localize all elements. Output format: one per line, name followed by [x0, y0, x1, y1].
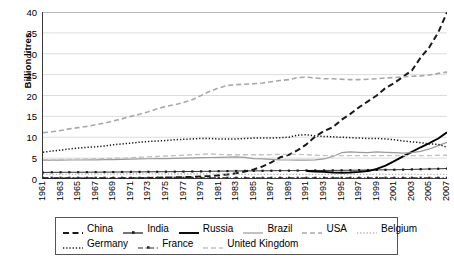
x-tick-1969: 1969 [107, 181, 117, 201]
legend-label-belgium: Belgium [381, 224, 417, 234]
x-tick-1961: 1961 [37, 181, 47, 201]
series-marker [59, 171, 61, 173]
plot-series-svg [43, 12, 447, 179]
legend-label-brazil: Brazil [267, 224, 292, 234]
series-marker [332, 177, 334, 179]
series-marker [226, 177, 228, 179]
series-marker [191, 177, 193, 179]
legend-label-france: France [162, 239, 193, 249]
legend-swatch-india [122, 224, 144, 234]
x-tick-1975: 1975 [160, 181, 170, 201]
legend-swatch-usa [301, 224, 323, 234]
series-marker [314, 177, 316, 179]
series-marker [297, 169, 299, 171]
series-marker [235, 170, 237, 172]
plot-area [42, 12, 446, 179]
series-marker [428, 168, 430, 170]
series-marker [200, 170, 202, 172]
y-tick-35: 35 [26, 27, 37, 38]
series-marker [103, 177, 105, 179]
chart-legend: ChinaIndiaRussiaBrazilUSABelgiumGermanyF… [55, 217, 398, 255]
legend-label-india: India [147, 224, 169, 234]
legend-label-usa: USA [326, 224, 347, 234]
series-marker [59, 177, 61, 179]
series-marker [77, 171, 79, 173]
x-tick-2005: 2005 [423, 181, 433, 201]
series-marker [279, 170, 281, 172]
x-tick-1963: 1963 [55, 181, 65, 201]
line-chart: Billion litres 0510152025303540 19611963… [0, 0, 454, 263]
legend-swatch-brazil [242, 224, 264, 234]
x-tick-1981: 1981 [213, 181, 223, 201]
series-marker [253, 170, 255, 172]
series-marker [341, 177, 343, 179]
legend-item-germany[interactable]: Germany [62, 239, 128, 249]
series-marker [332, 169, 334, 171]
x-tick-1967: 1967 [90, 181, 100, 201]
series-marker [244, 177, 246, 179]
legend-row-1: ChinaIndiaRussiaBrazilUSABelgium [62, 221, 391, 236]
legend-swatch-belgium [356, 224, 378, 234]
y-tick-15: 15 [26, 111, 37, 122]
legend-item-russia[interactable]: Russia [178, 224, 234, 234]
series-marker [130, 177, 132, 179]
legend-item-india[interactable]: India [122, 224, 169, 234]
legend-swatch-germany [62, 239, 84, 249]
series-marker [200, 177, 202, 179]
series-marker [103, 171, 105, 173]
x-tick-2001: 2001 [388, 181, 398, 201]
series-marker [244, 170, 246, 172]
series-marker [402, 169, 404, 171]
legend-item-belgium[interactable]: Belgium [356, 224, 417, 234]
series-marker [261, 177, 263, 179]
series-marker [279, 177, 281, 179]
series-marker [51, 177, 53, 179]
series-marker [323, 177, 325, 179]
series-marker [420, 168, 422, 170]
series-marker [349, 169, 351, 171]
series-marker [218, 177, 220, 179]
series-marker [139, 171, 141, 173]
series-marker [51, 171, 53, 173]
x-tick-1977: 1977 [178, 181, 188, 201]
legend-label-russia: Russia [203, 224, 234, 234]
legend-swatch-russia [178, 224, 200, 234]
series-marker [270, 177, 272, 179]
legend-label-china: China [87, 224, 113, 234]
series-marker [411, 168, 413, 170]
x-tick-1985: 1985 [248, 181, 258, 201]
series-marker [112, 171, 114, 173]
x-tick-1991: 1991 [300, 181, 310, 201]
y-tick-40: 40 [26, 7, 37, 18]
x-tick-1993: 1993 [318, 181, 328, 201]
series-marker [261, 170, 263, 172]
legend-item-france[interactable]: France [137, 239, 193, 249]
series-marker [68, 177, 70, 179]
y-tick-5: 5 [32, 153, 37, 164]
series-marker [209, 177, 211, 179]
legend-row-2: GermanyFranceUnited Kingdom [62, 236, 391, 251]
series-marker [165, 171, 167, 173]
series-marker [288, 177, 290, 179]
legend-item-united-kingdom[interactable]: United Kingdom [202, 239, 298, 249]
series-marker [384, 177, 386, 179]
legend-item-usa[interactable]: USA [301, 224, 347, 234]
legend-swatch-china [62, 224, 84, 234]
series-marker [393, 169, 395, 171]
series-marker [68, 171, 70, 173]
series-marker [297, 177, 299, 179]
legend-item-china[interactable]: China [62, 224, 113, 234]
series-marker [121, 177, 123, 179]
series-marker [174, 171, 176, 173]
legend-label-germany: Germany [87, 239, 128, 249]
series-marker [156, 171, 158, 173]
series-marker [420, 177, 422, 179]
y-axis-tick-labels: 0510152025303540 [0, 0, 42, 179]
series-marker [437, 177, 439, 179]
series-marker [235, 177, 237, 179]
series-marker [139, 177, 141, 179]
series-marker [182, 170, 184, 172]
series-marker [446, 167, 447, 169]
legend-item-brazil[interactable]: Brazil [242, 224, 292, 234]
series-marker [191, 170, 193, 172]
